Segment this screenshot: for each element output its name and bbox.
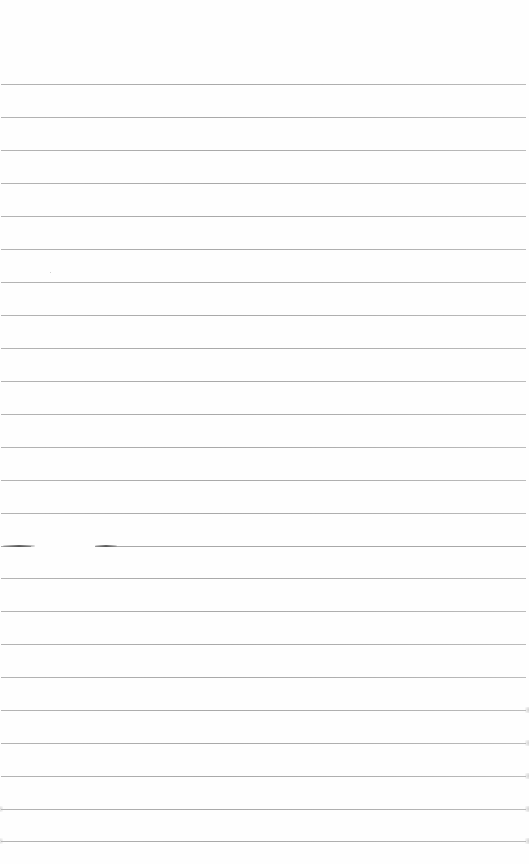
ruled-line	[1, 282, 526, 283]
ruled-line	[1, 776, 526, 777]
ruled-line	[1, 677, 526, 678]
page-edge-shadow	[525, 838, 529, 844]
ink-smudge	[3, 545, 35, 547]
ruled-line	[1, 447, 526, 448]
ruled-line	[1, 183, 526, 184]
ruled-line	[1, 381, 526, 382]
ruled-line-segment	[95, 546, 526, 547]
ruled-line	[1, 644, 526, 645]
ruled-line	[1, 743, 526, 744]
ruled-line	[1, 710, 526, 711]
page-edge-shadow	[525, 707, 529, 713]
page-edge-shadow	[525, 773, 529, 779]
ruled-line	[1, 513, 526, 514]
paper-speck	[50, 272, 51, 273]
ruled-line	[1, 348, 526, 349]
ruled-line	[1, 414, 526, 415]
ruled-line	[1, 216, 526, 217]
page-edge-shadow	[0, 806, 3, 812]
ruled-line	[1, 809, 526, 810]
ruled-line	[1, 611, 526, 612]
ruled-paper-sheet	[0, 0, 529, 864]
ruled-line	[1, 841, 526, 842]
ruled-line	[1, 249, 526, 250]
ruled-line	[1, 578, 526, 579]
page-edge-shadow	[525, 740, 529, 746]
ink-smudge	[95, 545, 117, 547]
page-edge-shadow	[525, 806, 529, 812]
ruled-line	[1, 150, 526, 151]
ruled-line	[1, 480, 526, 481]
page-edge-shadow	[0, 838, 3, 844]
ruled-line	[1, 84, 526, 85]
ruled-line	[1, 117, 526, 118]
ruled-line	[1, 315, 526, 316]
